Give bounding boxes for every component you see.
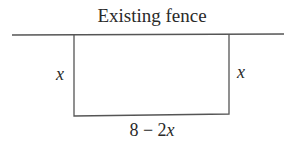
- left-side-label: x: [56, 64, 64, 85]
- bottom-label-variable: x: [167, 120, 175, 140]
- fence-diagram: Existing fence x x 8 − 2x: [0, 0, 294, 153]
- bottom-side-label: 8 − 2x: [0, 120, 294, 141]
- enclosure-rectangle: [74, 34, 229, 116]
- right-side-label: x: [237, 62, 245, 83]
- bottom-label-constant: 8 − 2: [129, 120, 166, 140]
- existing-fence-label: Existing fence: [0, 5, 294, 27]
- existing-fence-line: [12, 34, 284, 35]
